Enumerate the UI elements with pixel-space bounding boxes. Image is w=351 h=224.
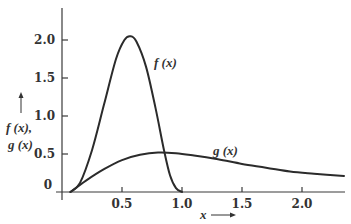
y-tick-label: 0	[44, 178, 52, 192]
y-axis-label-line2: g (x)	[7, 137, 33, 152]
x-tick-label: 0.5	[112, 197, 133, 211]
x-tick-label: 2.0	[292, 197, 313, 211]
x-ticks	[122, 187, 302, 192]
g-curve	[70, 152, 344, 192]
y-axis-label-line1: f (x),	[6, 120, 32, 135]
y-tick-label: 0.5	[34, 147, 55, 161]
x-axis-label: x	[199, 207, 207, 222]
x-tick-label: 1.0	[172, 197, 193, 211]
y-tick-label: 1.0	[34, 109, 55, 123]
g-curve-label: g (x)	[212, 143, 238, 158]
x-tick-label: 1.5	[232, 197, 253, 211]
y-ticks	[62, 40, 68, 154]
y-axis-arrow-icon	[19, 92, 24, 113]
x-axis-arrow-icon	[211, 213, 236, 218]
f-curve-label: f (x)	[154, 55, 177, 70]
y-tick-label: 1.5	[34, 71, 55, 85]
chart: 0 0.5 1.0 1.5 2.0 0.5 1.0 1.5 2.0 x f (x…	[0, 0, 351, 224]
y-tick-label: 2.0	[34, 33, 55, 47]
